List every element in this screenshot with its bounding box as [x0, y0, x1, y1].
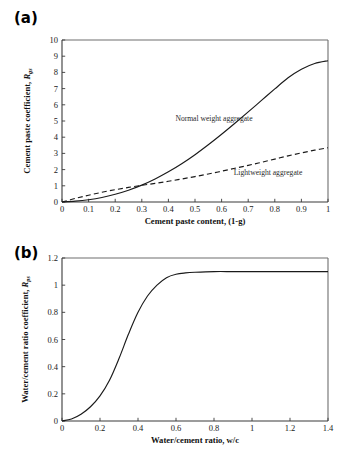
- y-tick-label: 2: [54, 165, 58, 175]
- x-tick-label: 0: [60, 204, 64, 214]
- y-axis-title: Water/cement ratio coefficient, Rps: [20, 276, 31, 403]
- panel-a: (a) 00.10.20.30.40.50.60.70.80.910123456…: [0, 0, 351, 237]
- x-tick-label: 1: [250, 423, 254, 433]
- data-curve: [62, 272, 328, 421]
- x-tick-label: 0: [60, 423, 64, 433]
- x-tick-label: 0.5: [190, 204, 201, 214]
- panel-a-plot: 00.10.20.30.40.50.60.70.80.9101234567891…: [0, 0, 351, 237]
- y-tick-label: 0.6: [47, 335, 58, 345]
- curve-annotation: Normal weight aggregate: [175, 114, 253, 123]
- x-tick-label: 0.3: [136, 204, 147, 214]
- x-axis-title: Cement paste content, (1-g): [145, 216, 246, 226]
- curve-annotation: Lightweight aggregate: [234, 168, 303, 177]
- svg-text:Cement paste coefficient, Rgs: Cement paste coefficient, Rgs: [22, 68, 33, 174]
- y-tick-label: 0: [54, 197, 58, 207]
- figure-container: (a) 00.10.20.30.40.50.60.70.80.910123456…: [0, 0, 351, 475]
- data-curve: [62, 61, 328, 202]
- x-tick-label: 0.1: [83, 204, 94, 214]
- x-tick-label: 1: [326, 204, 330, 214]
- y-tick-label: 1: [54, 181, 58, 191]
- x-tick-label: 0.4: [133, 423, 144, 433]
- x-tick-label: 1.2: [285, 423, 296, 433]
- panel-a-tag: (a): [14, 9, 38, 27]
- y-tick-label: 0.4: [47, 362, 58, 372]
- y-tick-label: 7: [54, 84, 58, 94]
- x-tick-label: 0.8: [209, 423, 220, 433]
- y-tick-label: 0: [54, 416, 58, 426]
- x-tick-label: 0.2: [110, 204, 121, 214]
- x-tick-label: 0.4: [163, 204, 174, 214]
- svg-text:Water/cement ratio coefficient: Water/cement ratio coefficient, Rps: [20, 276, 31, 403]
- x-tick-label: 0.9: [296, 204, 307, 214]
- y-tick-label: 10: [50, 35, 59, 45]
- x-tick-label: 0.2: [95, 423, 106, 433]
- y-tick-label: 4: [54, 132, 59, 142]
- x-axis-title: Water/cement ratio, w/c: [151, 435, 239, 445]
- y-tick-label: 3: [54, 148, 58, 158]
- x-tick-label: 0.7: [243, 204, 254, 214]
- panel-b-tag: (b): [14, 244, 38, 262]
- panel-b: (b) 00.20.40.60.811.21.400.20.40.60.811.…: [0, 238, 351, 475]
- y-tick-label: 1: [54, 280, 58, 290]
- y-tick-label: 0.2: [47, 389, 58, 399]
- y-tick-label: 1.2: [47, 253, 58, 263]
- x-tick-label: 0.6: [216, 204, 227, 214]
- y-tick-label: 5: [54, 116, 58, 126]
- y-tick-label: 8: [54, 67, 58, 77]
- y-tick-label: 0.8: [47, 307, 58, 317]
- x-tick-label: 0.8: [269, 204, 280, 214]
- y-tick-label: 9: [54, 51, 58, 61]
- y-axis-title: Cement paste coefficient, Rgs: [22, 68, 33, 174]
- panel-b-plot: 00.20.40.60.811.21.400.20.40.60.811.2Wat…: [0, 238, 351, 475]
- x-tick-label: 1.4: [323, 423, 334, 433]
- x-tick-label: 0.6: [171, 423, 182, 433]
- y-tick-label: 6: [54, 100, 58, 110]
